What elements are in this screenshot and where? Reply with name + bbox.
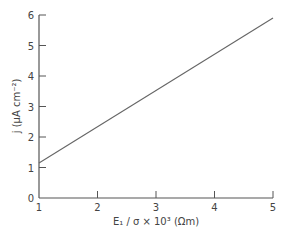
x-tick-label: 2 — [94, 202, 100, 213]
x-tick-label: 4 — [211, 202, 217, 213]
line-chart: 012345612345 E₁ / σ × 10³ (Ωm) j (μA cm⁻… — [0, 0, 285, 235]
y-tick-label: 6 — [28, 10, 34, 21]
data-line — [39, 18, 273, 163]
x-tick-label: 3 — [153, 202, 159, 213]
y-tick-label: 4 — [28, 71, 34, 82]
plot-area — [39, 18, 273, 163]
x-axis-label: E₁ / σ × 10³ (Ωm) — [113, 216, 199, 227]
y-tick-label: 2 — [28, 132, 34, 143]
y-tick-label: 5 — [28, 41, 34, 52]
x-tick-label: 5 — [270, 202, 276, 213]
x-tick-label: 1 — [36, 202, 42, 213]
y-tick-label: 1 — [28, 163, 34, 174]
y-tick-label: 3 — [28, 102, 34, 113]
axes: 012345612345 — [28, 10, 277, 213]
y-tick-label: 0 — [28, 193, 34, 204]
y-axis-label: j (μA cm⁻²) — [11, 79, 22, 135]
